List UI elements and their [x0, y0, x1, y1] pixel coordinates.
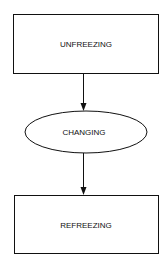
arrow-head-icon	[81, 103, 87, 111]
refreezing-label: REFREEZING	[60, 221, 112, 230]
edge-unfreezing-changing	[81, 74, 87, 111]
arrow-head-icon	[81, 187, 87, 195]
changing-label: CHANGING	[62, 128, 105, 137]
unfreezing-label: UNFREEZING	[60, 40, 112, 49]
node-changing: CHANGING	[25, 111, 147, 153]
flowchart-canvas: UNFREEZING CHANGING REFREEZING	[0, 0, 167, 269]
node-refreezing: REFREEZING	[15, 196, 159, 254]
edge-changing-refreezing	[81, 153, 87, 195]
node-unfreezing: UNFREEZING	[14, 15, 159, 74]
